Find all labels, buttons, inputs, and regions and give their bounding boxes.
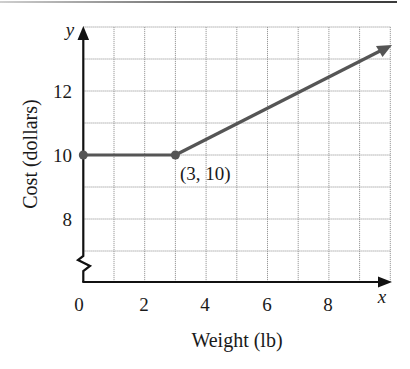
point-annotation: (3, 10) — [180, 163, 231, 185]
x-variable-label: x — [377, 286, 387, 307]
x-tick-label: 0 — [74, 294, 84, 315]
x-tick-label: 8 — [323, 294, 333, 315]
x-tick-label: 2 — [139, 294, 149, 315]
y-axis — [78, 38, 90, 282]
y-variable-label: y — [64, 19, 75, 40]
y-axis-arrow-icon — [78, 26, 90, 40]
x-tick-label: 6 — [262, 294, 272, 315]
x-tick-label: 4 — [200, 294, 210, 315]
x-axis-title: Weight (lb) — [191, 329, 282, 352]
y-tick-label: 8 — [63, 209, 73, 230]
cost-series — [79, 45, 392, 160]
y-tick-label: 10 — [53, 145, 72, 166]
chart-canvas: 12 10 8 0 2 4 6 8 y x (3, 10) Weight (lb… — [0, 0, 410, 369]
y-axis-title: Cost (dollars) — [19, 99, 42, 208]
data-point — [79, 151, 88, 160]
y-tick-label: 12 — [53, 81, 72, 102]
data-point — [171, 151, 180, 160]
top-rule — [0, 1, 397, 3]
